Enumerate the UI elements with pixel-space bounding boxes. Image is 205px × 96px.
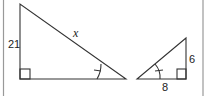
similar-triangles-diagram: 21 x 6 8 (0, 0, 205, 96)
small-triangle: 6 8 (137, 38, 195, 93)
large-right-angle-mark (20, 69, 30, 79)
small-triangle-outline (137, 38, 186, 79)
large-vertical-leg-label: 21 (8, 38, 20, 50)
small-angle-tick (155, 70, 163, 71)
large-hypotenuse-label: x (72, 26, 79, 40)
large-angle-arc (97, 64, 101, 79)
small-right-angle-mark (177, 69, 186, 79)
large-triangle-outline (20, 4, 126, 79)
small-vertical-leg-label: 6 (189, 53, 195, 65)
small-horizontal-leg-label: 8 (162, 81, 168, 93)
large-triangle: 21 x (8, 4, 126, 79)
small-angle-arc (155, 64, 160, 79)
